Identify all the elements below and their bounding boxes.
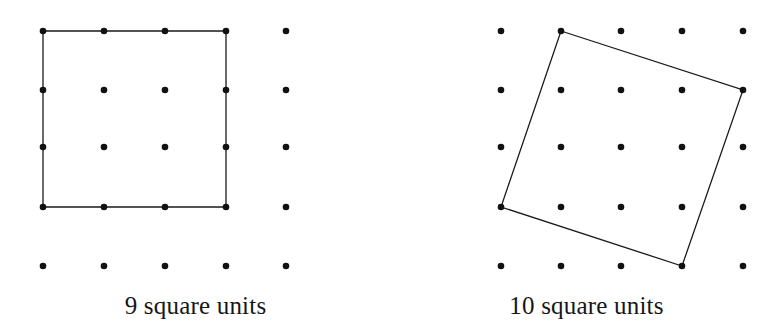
left-lattice-dot-r4c2 bbox=[101, 204, 108, 211]
right-lattice-dot-r5c4 bbox=[679, 263, 686, 270]
right-lattice-dot-r3c3 bbox=[618, 144, 625, 151]
left-lattice-dot-r4c1 bbox=[40, 204, 47, 211]
left-lattice-dot-r2c3 bbox=[162, 87, 169, 94]
right-lattice-dot-r4c2 bbox=[558, 204, 565, 211]
right-lattice-diagram bbox=[391, 0, 782, 290]
right-lattice-dot-r3c5 bbox=[740, 144, 747, 151]
right-lattice-dot-r5c5 bbox=[740, 263, 747, 270]
left-lattice-dot-r3c5 bbox=[283, 144, 290, 151]
left-lattice-dot-r5c4 bbox=[223, 263, 230, 270]
right-lattice-dot-r4c5 bbox=[740, 204, 747, 211]
left-lattice-dot-r1c1 bbox=[40, 28, 47, 35]
right-lattice-dot-r1c3 bbox=[618, 28, 625, 35]
right-lattice-dot-r3c1 bbox=[498, 144, 505, 151]
right-lattice-dot-r1c1 bbox=[498, 28, 505, 35]
geoboard-figure: 9 square units 10 square units bbox=[0, 0, 782, 329]
left-lattice-dot-r3c4 bbox=[223, 144, 230, 151]
right-lattice-dot-r2c1 bbox=[498, 87, 505, 94]
right-figure-panel: 10 square units bbox=[391, 0, 782, 329]
right-lattice-dot-r5c3 bbox=[618, 263, 625, 270]
right-lattice-dot-r1c4 bbox=[679, 28, 686, 35]
left-lattice-dot-r3c2 bbox=[101, 144, 108, 151]
right-panel-caption: 10 square units bbox=[391, 292, 782, 320]
right-lattice-dot-r2c4 bbox=[679, 87, 686, 94]
left-lattice-dot-r5c2 bbox=[101, 263, 108, 270]
left-lattice-dot-r2c2 bbox=[101, 87, 108, 94]
right-lattice-dot-r4c3 bbox=[618, 204, 625, 211]
left-lattice-dot-r2c1 bbox=[40, 87, 47, 94]
left-lattice-dot-r5c1 bbox=[40, 263, 47, 270]
left-lattice-dot-r4c3 bbox=[162, 204, 169, 211]
right-lattice-dot-r5c2 bbox=[558, 263, 565, 270]
left-figure-panel: 9 square units bbox=[0, 0, 391, 329]
left-lattice-dot-r4c4 bbox=[223, 204, 230, 211]
left-lattice-dot-r2c4 bbox=[223, 87, 230, 94]
left-lattice-dot-r3c3 bbox=[162, 144, 169, 151]
right-lattice-dot-r1c5 bbox=[740, 28, 747, 35]
right-lattice-dot-r2c3 bbox=[618, 87, 625, 94]
left-lattice-diagram bbox=[0, 0, 391, 290]
left-lattice-dot-r5c3 bbox=[162, 263, 169, 270]
right-lattice-dot-r3c4 bbox=[679, 144, 686, 151]
right-lattice-dot-r4c1 bbox=[498, 204, 505, 211]
right-lattice-dot-r1c2 bbox=[558, 28, 565, 35]
right-lattice-dot-r4c4 bbox=[679, 204, 686, 211]
left-lattice-dot-r1c5 bbox=[283, 28, 290, 35]
right-lattice-dot-r5c1 bbox=[498, 263, 505, 270]
left-lattice-dot-r3c1 bbox=[40, 144, 47, 151]
right-lattice-dot-r3c2 bbox=[558, 144, 565, 151]
left-lattice-dot-r2c5 bbox=[283, 87, 290, 94]
left-lattice-dot-r5c5 bbox=[283, 263, 290, 270]
right-lattice-dot-r2c5 bbox=[740, 87, 747, 94]
right-lattice-dot-r2c2 bbox=[558, 87, 565, 94]
left-panel-caption: 9 square units bbox=[0, 292, 391, 320]
left-lattice-dot-r1c4 bbox=[223, 28, 230, 35]
left-square-outline bbox=[43, 31, 226, 207]
left-lattice-dot-r1c2 bbox=[101, 28, 108, 35]
left-lattice-dot-r1c3 bbox=[162, 28, 169, 35]
left-lattice-dot-r4c5 bbox=[283, 204, 290, 211]
